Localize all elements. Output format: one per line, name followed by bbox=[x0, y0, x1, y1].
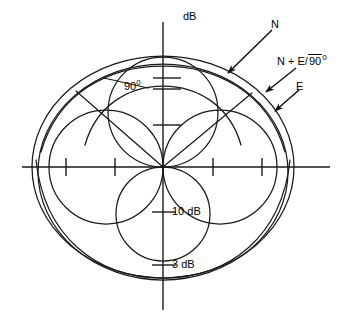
annotation-arrow-n-plus-e bbox=[266, 68, 296, 92]
diagonal-axis-nw bbox=[76, 91, 163, 167]
annotation-label-n: N bbox=[271, 19, 279, 30]
annotation-label-n-plus-e-degree: 0 bbox=[322, 53, 326, 62]
angle-label-degree: 0 bbox=[136, 78, 140, 87]
annotation-label-n-plus-e: N + E/900 bbox=[277, 56, 327, 67]
angle-label-90: 900 bbox=[124, 81, 141, 92]
annotation-arrow-e bbox=[275, 90, 299, 111]
annotation-label-e: E bbox=[296, 81, 303, 92]
annotation-arrow-n bbox=[228, 30, 272, 73]
tick-label-10db: 10 dB bbox=[172, 206, 201, 217]
angle-label-value: 90 bbox=[124, 80, 136, 92]
radiation-pattern-figure: dB 10 dB 3 dB 900 N N + E/900 E bbox=[0, 0, 350, 328]
annotation-label-n-plus-e-prefix: N + E bbox=[277, 55, 305, 67]
polar-plot-canvas bbox=[0, 0, 350, 328]
annotation-label-n-plus-e-denominator: 90 bbox=[308, 54, 322, 67]
tick-label-3db: 3 dB bbox=[172, 259, 195, 270]
vertical-axis-label: dB bbox=[183, 11, 196, 22]
